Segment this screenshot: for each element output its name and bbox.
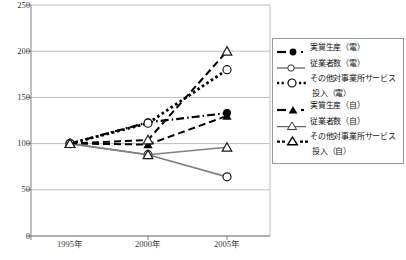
legend-label-2-line2: 投入（電） [312, 89, 401, 99]
marker-s2-p2 [223, 66, 231, 74]
legend-item-2[interactable]: その他対事業所サービス [276, 74, 401, 87]
legend-label-4: 従業者数（自） [310, 117, 365, 127]
y-tick-50: 50 [4, 185, 30, 193]
legend-label-0: 実質生産（電） [310, 43, 365, 53]
legend-symbol-dashed-filled-triangle-icon [276, 102, 310, 114]
legend-symbol-dashdot-filled-circle-icon [276, 44, 310, 56]
series-line-1 [70, 144, 227, 177]
legend-item-0[interactable]: 実質生産（電） [276, 43, 401, 56]
legend-label-1: 従業者数（電） [310, 59, 365, 69]
marker-s2-p1 [144, 119, 152, 127]
y-axis: 250 200 150 100 50 0 [0, 0, 30, 260]
x-tick-2000: 2000年 [113, 239, 183, 249]
legend-item-5[interactable]: その他対事業所サービス [276, 132, 401, 145]
marker-s1-p2 [223, 173, 231, 181]
legend-label-3: 実質生産（自） [310, 101, 365, 111]
legend-symbol-solid-open-circle-icon [276, 60, 310, 72]
legend-label-5: その他対事業所サービス [310, 132, 396, 142]
legend-item-3[interactable]: 実質生産（自） [276, 101, 401, 114]
y-tick-150: 150 [4, 93, 30, 101]
legend-label-2: その他対事業所サービス [310, 74, 396, 84]
x-tick-1995: 1995年 [35, 239, 105, 249]
legend-symbol-dotted-open-circle-icon [276, 75, 310, 87]
legend-symbol-dashed-open-triangle-icon [276, 133, 310, 145]
x-tick-2005: 2005年 [192, 239, 262, 249]
y-tick-100: 100 [4, 139, 30, 147]
legend: 実質生産（電） 従業者数（電） その他対事業所サービス 投入（電） [272, 38, 404, 164]
y-tick-200: 200 [4, 47, 30, 55]
y-tick-250: 250 [4, 1, 30, 9]
series-line-2 [70, 70, 227, 144]
legend-symbol-solid-open-triangle-icon [276, 118, 310, 130]
legend-item-4[interactable]: 従業者数（自） [276, 117, 401, 130]
x-axis: 1995年 2000年 2005年 [0, 239, 270, 257]
legend-label-5-line2: 投入（自） [312, 147, 401, 157]
legend-item-1[interactable]: 従業者数（電） [276, 59, 401, 72]
chart-figure: 250 200 150 100 50 0 1995年 2000年 2005年 実… [0, 0, 406, 260]
